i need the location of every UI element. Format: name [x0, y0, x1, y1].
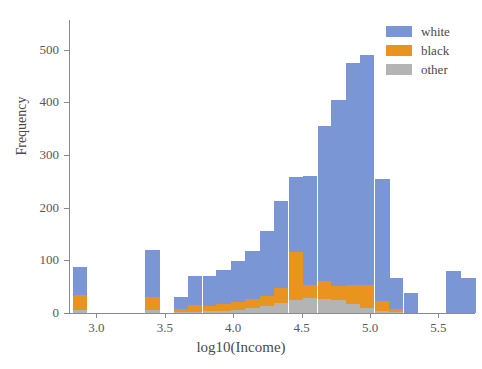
bar-segment-other	[331, 300, 345, 313]
y-tick-label: 400	[40, 94, 60, 110]
bar-segment-black	[231, 302, 245, 309]
legend-label-white: white	[421, 25, 450, 38]
histogram-bar	[174, 297, 188, 313]
x-tick-label: 4.5	[293, 320, 309, 336]
bar-segment-white	[174, 297, 188, 310]
bar-segment-other	[260, 306, 274, 313]
histogram-bar	[289, 177, 303, 313]
y-tick-label: 300	[40, 147, 60, 163]
histogram-bar	[203, 276, 217, 313]
histogram-bar	[331, 100, 345, 313]
x-axis-label: log10(Income)	[0, 339, 482, 356]
bar-segment-other	[303, 298, 317, 313]
bar-segment-white	[216, 270, 230, 303]
y-tick-label: 500	[40, 42, 60, 58]
histogram-bar	[260, 231, 274, 313]
x-tick-label: 3.5	[157, 320, 173, 336]
bar-segment-white	[346, 63, 360, 285]
y-tick-mark	[64, 50, 69, 51]
legend-swatch-white-icon	[386, 26, 412, 37]
x-tick-label: 5.0	[362, 320, 378, 336]
bar-segment-white	[73, 267, 87, 295]
bar-segment-black	[318, 281, 332, 299]
x-tick-mark	[370, 313, 371, 318]
x-tick-label: 3.0	[88, 320, 104, 336]
bar-segment-black	[289, 252, 303, 300]
bar-segment-white	[360, 55, 374, 284]
histogram-bar	[274, 201, 288, 313]
bar-segment-white	[289, 177, 303, 252]
y-axis-label: Frequency	[14, 66, 30, 186]
x-tick-label: 5.5	[430, 320, 446, 336]
histogram-bar	[375, 179, 389, 313]
bar-segment-white	[245, 251, 259, 299]
bar-segment-white	[461, 278, 475, 313]
x-tick-mark	[165, 313, 166, 318]
bar-segment-white	[303, 176, 317, 285]
histogram-bar	[188, 276, 202, 313]
bar-segment-white	[274, 201, 288, 288]
bar-segment-black	[360, 285, 374, 308]
bar-segment-black	[216, 304, 230, 311]
y-tick-mark	[64, 260, 69, 261]
y-tick-mark	[64, 313, 69, 314]
histogram-bar	[318, 126, 332, 313]
bar-segment-black	[145, 297, 159, 310]
legend-item-black[interactable]: black	[386, 41, 450, 60]
histogram-bar	[216, 270, 230, 313]
bar-segment-other	[318, 299, 332, 313]
bar-segment-black	[174, 309, 188, 312]
bar-segment-white	[145, 250, 159, 296]
bar-segment-white	[231, 261, 245, 303]
bar-segment-white	[389, 278, 403, 309]
bar-segment-white	[203, 276, 217, 306]
legend-swatch-black-icon	[386, 45, 412, 56]
bar-segment-black	[331, 286, 345, 301]
x-axis-line	[69, 313, 475, 314]
bar-segment-white	[188, 276, 202, 304]
bar-segment-other	[289, 300, 303, 313]
histogram-bar	[231, 261, 245, 313]
y-tick-mark	[64, 102, 69, 103]
bar-segment-white	[375, 179, 389, 302]
y-tick-label: 0	[53, 305, 60, 321]
x-tick-mark	[233, 313, 234, 318]
bar-segment-black	[245, 299, 259, 308]
y-tick-label: 100	[40, 252, 60, 268]
histogram-bar	[346, 63, 360, 313]
bar-segment-black	[274, 288, 288, 303]
bar-segment-black	[389, 309, 403, 312]
legend-item-other[interactable]: other	[386, 60, 450, 79]
x-tick-label: 4.0	[225, 320, 241, 336]
histogram-bar	[389, 278, 403, 313]
x-tick-mark	[96, 313, 97, 318]
histogram-bar	[145, 250, 159, 313]
histogram-bar	[446, 271, 460, 313]
histogram-chart: 01002003004005003.03.54.04.55.05.5 Frequ…	[0, 0, 482, 369]
bar-segment-white	[404, 293, 418, 313]
y-tick-mark	[64, 155, 69, 156]
bar-segment-black	[303, 285, 317, 299]
histogram-bar	[303, 176, 317, 313]
histogram-bar	[404, 291, 418, 313]
bar-segment-white	[260, 231, 274, 295]
legend: white black other	[386, 22, 450, 79]
y-axis-line	[69, 20, 70, 313]
x-tick-mark	[302, 313, 303, 318]
bar-segment-black	[346, 285, 360, 303]
bar-segment-black	[260, 296, 274, 307]
bar-segment-white	[446, 271, 460, 313]
histogram-bar	[245, 251, 259, 313]
y-tick-mark	[64, 208, 69, 209]
y-tick-label: 200	[40, 200, 60, 216]
x-tick-mark	[438, 313, 439, 318]
bar-segment-black	[73, 295, 87, 310]
bar-segment-black	[188, 305, 202, 312]
legend-label-black: black	[421, 44, 449, 57]
histogram-bar	[461, 278, 475, 313]
histogram-bar	[360, 55, 374, 313]
legend-item-white[interactable]: white	[386, 22, 450, 41]
bar-segment-black	[203, 306, 217, 311]
bar-segment-white	[331, 100, 345, 285]
histogram-bar	[73, 267, 87, 313]
